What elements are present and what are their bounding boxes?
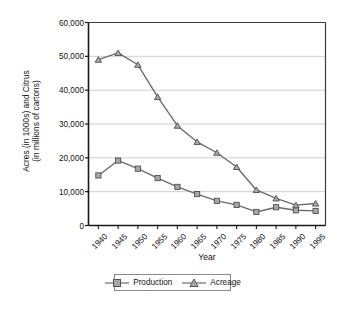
triangle-marker-icon <box>181 278 207 288</box>
legend-item-acreage: Acreage <box>181 278 241 288</box>
chart-legend: Production Acreage <box>114 274 231 291</box>
legend-item-production: Production <box>104 278 172 288</box>
legend-label-acreage: Acreage <box>210 278 241 287</box>
chart-figure: Acres (in 1000s) and Citrus (in millions… <box>0 0 342 311</box>
plot-area <box>0 0 342 311</box>
legend-label-production: Production <box>133 278 172 287</box>
square-marker-icon <box>104 278 130 288</box>
x-axis-title: Year <box>88 252 326 262</box>
data-series-layer <box>95 50 319 215</box>
gridlines <box>89 23 326 192</box>
